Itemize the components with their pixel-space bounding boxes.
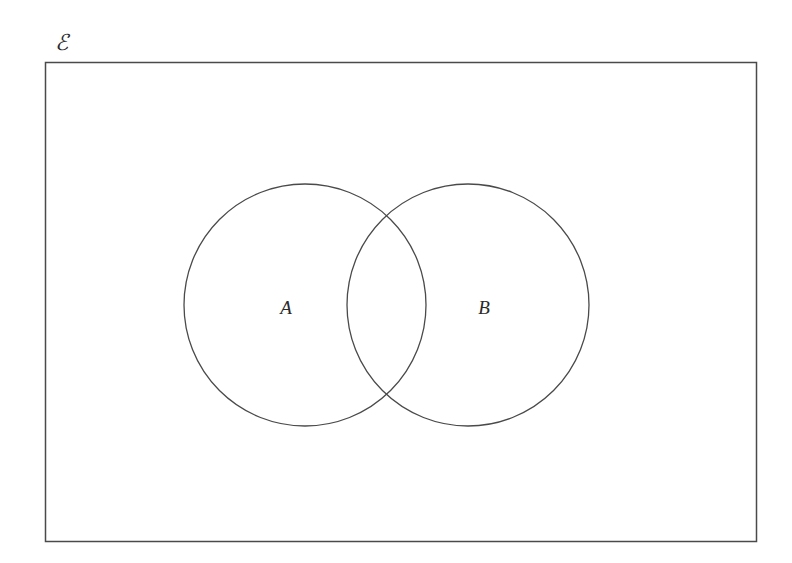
universal-set-label: ℰ bbox=[55, 30, 68, 55]
set-b-circle bbox=[347, 184, 589, 426]
venn-diagram bbox=[0, 0, 792, 563]
set-a-circle bbox=[184, 184, 426, 426]
set-a-label: A bbox=[280, 298, 292, 317]
set-b-label: B bbox=[478, 298, 490, 317]
universal-set-rectangle bbox=[46, 63, 757, 542]
